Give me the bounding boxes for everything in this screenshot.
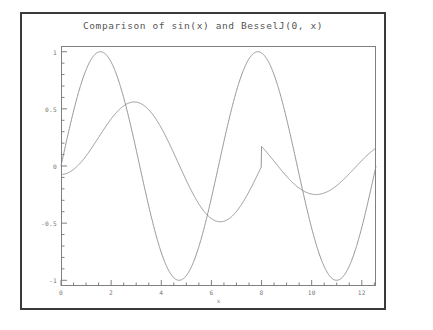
y-tick-label: 0.5 bbox=[45, 105, 57, 112]
y-tick-label: 0 bbox=[53, 163, 57, 170]
x-tick-label: 10 bbox=[308, 289, 316, 296]
plot-canvas bbox=[61, 46, 376, 286]
x-axis-title: x bbox=[217, 297, 221, 304]
x-tick-label: 12 bbox=[358, 289, 366, 296]
page-title: Comparison of sin(x) and BesselJ(0, x) bbox=[22, 20, 384, 31]
data-curves bbox=[61, 52, 376, 281]
screenshot-root: Comparison of sin(x) and BesselJ(0, x) 1… bbox=[0, 0, 433, 330]
y-tick-label: -1 bbox=[49, 277, 57, 284]
x-tick-label: 4 bbox=[159, 289, 163, 296]
x-tick-label: 8 bbox=[260, 289, 264, 296]
y-tick-label: 1 bbox=[53, 48, 57, 55]
curve-sin-x- bbox=[61, 52, 376, 281]
x-tick-label: 2 bbox=[109, 289, 113, 296]
y-tick-label: -0.5 bbox=[41, 220, 57, 227]
x-tick-label: 0 bbox=[59, 289, 63, 296]
curve-besselj-0-x- bbox=[61, 102, 376, 222]
x-tick-label: 6 bbox=[209, 289, 213, 296]
plot-window-frame: Comparison of sin(x) and BesselJ(0, x) 1… bbox=[20, 12, 386, 310]
plot-area: 10.50-0.5-1 024681012 x bbox=[61, 46, 376, 286]
